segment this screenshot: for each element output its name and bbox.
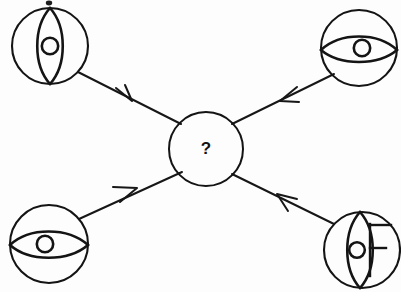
pupil-icon — [349, 242, 365, 258]
arrow-top-left-to-center — [78, 72, 181, 124]
center-unknown-node[interactable]: ? — [169, 112, 243, 186]
eye-sphere-horizontal-top-right[interactable] — [321, 10, 397, 86]
scan-speck-icon — [46, 1, 52, 6]
arrow-bottom-right-to-center — [232, 174, 334, 224]
sphere-outline — [324, 212, 400, 288]
pupil-icon — [42, 38, 58, 54]
diagram-canvas: ? — [0, 0, 401, 292]
connector-line — [232, 174, 334, 224]
pupil-icon — [37, 236, 53, 252]
sphere-outline — [321, 10, 397, 86]
arrow-top-right-to-center — [232, 74, 334, 124]
sphere-outline — [12, 8, 88, 84]
eye-sphere-vertical-letter-bottom-right[interactable] — [324, 212, 400, 288]
diagram-svg: ? — [0, 0, 401, 292]
eye-sphere-horizontal-bottom-left[interactable] — [10, 205, 88, 283]
connector-line — [79, 172, 182, 219]
arrowhead-icon — [280, 87, 299, 102]
arrow-bottom-left-to-center — [79, 172, 182, 219]
sphere-outline — [10, 205, 88, 283]
pupil-icon — [354, 40, 370, 56]
eye-sphere-vertical-top-left[interactable] — [12, 8, 88, 84]
center-question-label: ? — [201, 139, 211, 158]
